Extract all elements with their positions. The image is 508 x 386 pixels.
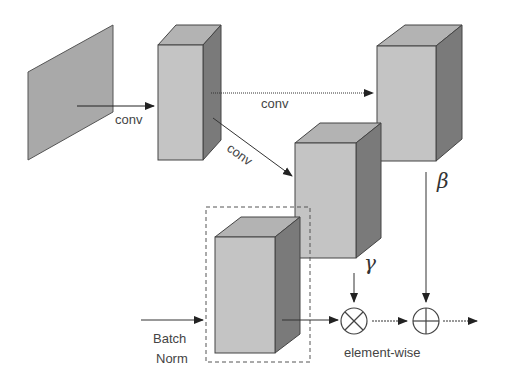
label-element-wise: element-wise xyxy=(344,345,421,360)
normalized-activation-block xyxy=(215,217,300,353)
input-plane xyxy=(28,25,113,160)
label-norm: Norm xyxy=(156,351,188,366)
label-beta: β xyxy=(436,169,449,193)
arrow-block-to-gamma xyxy=(213,118,292,176)
label-conv-gamma: conv xyxy=(224,140,255,169)
multiply-operator xyxy=(341,308,367,334)
label-gamma: γ xyxy=(364,251,376,275)
label-conv-input: conv xyxy=(115,112,143,127)
beta-block xyxy=(377,25,462,161)
label-batch: Batch xyxy=(153,331,186,346)
gamma-block xyxy=(295,123,381,258)
label-conv-beta: conv xyxy=(261,96,289,111)
add-operator xyxy=(413,308,439,334)
diagram-canvas: conv conv conv β γ Batch Norm element-wi… xyxy=(0,0,508,386)
